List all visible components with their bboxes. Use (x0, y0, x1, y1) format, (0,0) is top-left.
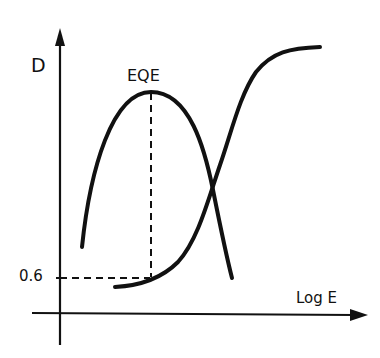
x-axis (32, 313, 355, 315)
x-axis-label: Log E (296, 291, 337, 306)
eqe-peak-label: EQE (127, 68, 160, 84)
y-axis-arrow-icon (55, 28, 65, 46)
eqe-curve (82, 92, 232, 278)
y-tick-label: 0.6 (19, 269, 43, 284)
y-axis-label: D (31, 56, 46, 75)
x-axis-arrow-icon (350, 309, 368, 321)
